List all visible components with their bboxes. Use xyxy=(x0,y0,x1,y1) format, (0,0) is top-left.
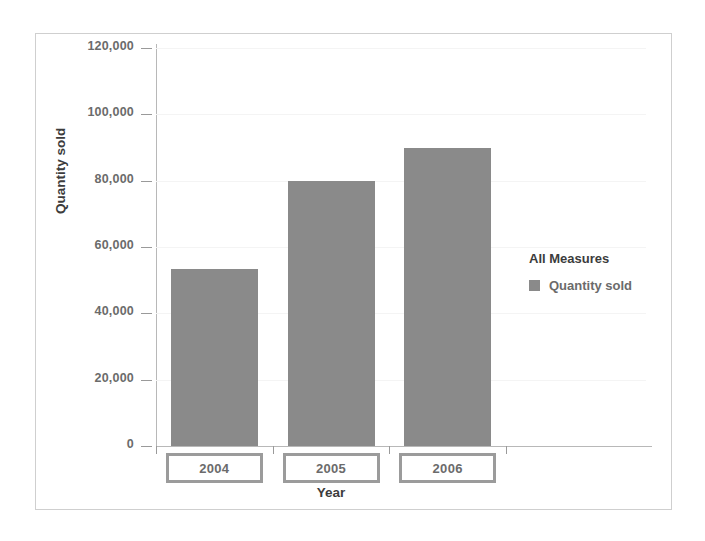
bar[interactable] xyxy=(288,181,375,446)
x-axis-category-label[interactable]: 2005 xyxy=(283,453,380,483)
y-tick-label: 20,000 xyxy=(95,371,134,385)
x-axis-title: Year xyxy=(156,485,506,500)
x-axis-category-label[interactable]: 2006 xyxy=(399,453,496,483)
plot-area xyxy=(156,48,506,446)
y-tick-label: 120,000 xyxy=(87,39,134,53)
legend: All Measures Quantity sold xyxy=(529,251,632,293)
legend-swatch-icon xyxy=(529,280,540,291)
x-axis-category-label-text: 2004 xyxy=(199,461,229,476)
y-tick-label: 0 xyxy=(127,437,134,451)
bar[interactable] xyxy=(171,269,258,446)
y-tick-mark xyxy=(141,446,152,447)
x-tick-mark xyxy=(273,446,274,454)
x-axis-line xyxy=(156,446,652,447)
bar[interactable] xyxy=(404,148,491,447)
x-tick-mark xyxy=(506,446,507,454)
x-axis-category-label-text: 2005 xyxy=(316,461,346,476)
x-tick-mark xyxy=(389,446,390,454)
chart-frame: Quantity sold 020,00040,00060,00080,0001… xyxy=(35,33,672,510)
legend-title: All Measures xyxy=(529,251,632,266)
x-axis-category-label-text: 2006 xyxy=(433,461,463,476)
y-tick-label: 40,000 xyxy=(95,304,134,318)
y-tick-label: 100,000 xyxy=(87,105,134,119)
y-axis-title: Quantity sold xyxy=(53,128,68,214)
legend-entries: Quantity sold xyxy=(529,278,632,293)
legend-entry[interactable]: Quantity sold xyxy=(529,278,632,293)
y-tick-mark xyxy=(141,313,152,314)
y-tick-label: 60,000 xyxy=(95,238,134,252)
x-tick-mark xyxy=(156,446,157,454)
y-tick-mark xyxy=(141,114,152,115)
y-tick-mark xyxy=(141,247,152,248)
y-tick-mark xyxy=(141,380,152,381)
y-tick-mark xyxy=(141,181,152,182)
x-axis-category-label[interactable]: 2004 xyxy=(166,453,263,483)
legend-entry-label: Quantity sold xyxy=(549,278,632,293)
y-tick-label: 80,000 xyxy=(95,172,134,186)
y-tick-mark xyxy=(141,48,152,49)
